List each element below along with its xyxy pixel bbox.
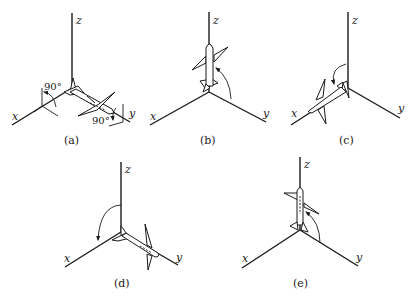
axis-label-y-a: y xyxy=(128,107,136,120)
axis-label-z-d: z xyxy=(124,163,131,176)
axis-label-x-a: x xyxy=(12,110,19,123)
caption-c: (c) xyxy=(339,134,354,147)
caption-a: (a) xyxy=(64,134,79,147)
axis-label-x-e: x xyxy=(242,252,249,265)
panel-d: z x y (d) xyxy=(64,162,183,290)
axis-label-y-b: y xyxy=(262,107,270,120)
axis-label-z-e: z xyxy=(303,158,310,171)
caption-e: (e) xyxy=(293,277,308,290)
airplane-c xyxy=(308,79,349,124)
panel-b: z x y (b) xyxy=(150,12,270,147)
rotation-arrow-b xyxy=(216,68,231,99)
angle-label-x-a: 90° xyxy=(44,81,62,92)
axis-label-y-e: y xyxy=(355,251,363,264)
airplane-b xyxy=(192,44,228,92)
panel-a: 90° 90° z x y (a) xyxy=(12,13,136,147)
axes-a xyxy=(12,13,130,125)
angle-label-y-a: 90° xyxy=(92,115,110,126)
axis-label-x-b: x xyxy=(150,110,157,123)
airplane-e xyxy=(284,188,319,233)
panel-e: z x y (e) xyxy=(242,157,363,290)
rotation-marker-x-a: 90° xyxy=(34,81,62,116)
airplane-d xyxy=(112,224,159,270)
rotation-arrow-c xyxy=(333,64,346,84)
caption-b: (b) xyxy=(200,134,216,147)
axis-label-z-c: z xyxy=(351,14,358,27)
axis-label-z-b: z xyxy=(212,14,219,27)
axes-d xyxy=(65,162,178,267)
axis-label-y-d: y xyxy=(175,251,183,264)
axes-c xyxy=(291,12,400,125)
airplane-a xyxy=(64,78,115,116)
caption-d: (d) xyxy=(114,277,130,290)
rotation-diagram: 90° 90° z x y (a) xyxy=(0,0,416,299)
axis-label-x-d: x xyxy=(64,252,71,265)
axis-label-x-c: x xyxy=(291,107,298,120)
axis-label-z-a: z xyxy=(75,14,82,27)
axis-label-y-c: y xyxy=(397,102,405,115)
panel-c: z x y (c) xyxy=(291,12,405,147)
